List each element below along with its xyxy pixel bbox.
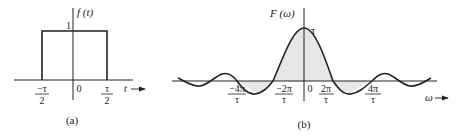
a-pulse-curve: [42, 31, 107, 80]
a-tick-neg-half-num: −τ: [37, 83, 47, 94]
b-caption: (b): [298, 118, 311, 131]
a-caption: (a): [66, 114, 79, 127]
b-tick-4pi-num: 4π: [368, 83, 378, 94]
b-tick-2pi-num: 2π: [321, 83, 331, 94]
b-y-label: F (ω): [269, 7, 295, 20]
a-tick-half-num: τ: [105, 83, 109, 94]
b-peak-label: τ: [311, 24, 316, 36]
b-tick-neg2pi-den: τ: [282, 94, 286, 105]
b-tick-4pi-den: τ: [371, 94, 375, 105]
b-tick-neg4pi-den: τ: [235, 94, 239, 105]
b-tick-neg4pi-num: −4π: [229, 83, 245, 94]
a-y-label: f (t): [77, 6, 94, 19]
figure-a-rect-pulse: f (t) 1 −τ 2 0 τ 2 t (a): [14, 6, 145, 127]
b-tick-2pi-den: τ: [324, 94, 328, 105]
a-tick-half-den: 2: [105, 95, 110, 106]
b-x-label: ω: [425, 91, 433, 103]
diagram-canvas: f (t) 1 −τ 2 0 τ 2 t (a) F (ω) τ −4π τ −…: [0, 0, 465, 136]
a-height-label: 1: [66, 20, 71, 31]
figure-b-sinc-spectrum: F (ω) τ −4π τ −2π τ 0 2π τ 4π τ ω (b): [172, 7, 448, 131]
a-x-label: t: [124, 83, 127, 94]
b-tick-neg2pi-num: −2π: [276, 83, 292, 94]
b-tick-zero: 0: [308, 83, 313, 94]
a-tick-neg-half-den: 2: [40, 95, 45, 106]
a-tick-zero: 0: [77, 83, 82, 94]
